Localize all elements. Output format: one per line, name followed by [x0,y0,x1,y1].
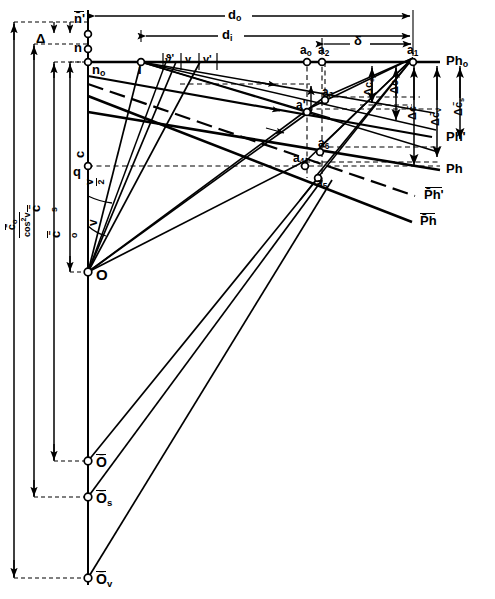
label-a6: a6 [318,137,329,151]
ray-pencil-from-O [88,62,326,272]
label-dimension-do: do [228,8,241,23]
ray-pencil-from-i [141,62,438,152]
label-O-bar: Ō [96,455,107,469]
label-a1: a1 [407,44,418,58]
point-O-bar-s [84,493,92,501]
label-plane-ph-o: Pho [446,54,468,69]
geometry-vector-layer [0,0,495,599]
label-a-prime: a' [296,99,306,111]
plane-line-ph-bar [88,96,412,222]
label-a2: a2 [318,44,329,58]
label-a3: a3 [322,86,333,100]
point-a2 [319,59,326,66]
projection-dashes-horizontal [88,84,440,166]
label-n-bar-prime: n̄' [74,12,85,25]
label-angle-theta-prime: ϑ' [165,53,174,64]
label-plane-ph: Ph [446,162,463,175]
point-q [85,163,92,170]
point-O-bar [84,457,92,465]
label-a0: ao [300,44,312,58]
label-plane-ph-bar: P̄h [420,214,437,227]
label-angle-v-prime: v' [203,54,212,65]
label-dimension-delta: δ [354,34,362,47]
point-n-bar-prime [85,31,92,38]
label-plane-ph-prime: Ph' [446,130,466,143]
ray-pencil-from-O-bars [88,178,332,578]
label-angle-v: v [185,54,191,65]
delta-gap-arrows [54,22,70,33]
label-dimension-di: di [222,28,232,43]
label-O-bar-s: Ōs [96,491,112,507]
label-O: O [96,267,108,282]
point-O [84,268,92,276]
point-O-bar-v [84,574,92,582]
label-q: q [73,165,81,178]
point-a0 [304,59,311,66]
point-n [85,46,92,53]
dimension-extension-ticks [141,10,413,56]
label-a5: a5 [316,177,327,191]
left-ruler-bars [14,22,70,578]
label-n0: no [92,63,105,78]
label-a4: a4 [293,152,304,166]
diagram-canvas: n̄' n no i q Δ O Ō Ōs Ōv do di δ ao a2 a… [0,0,495,599]
label-delta-gap: Δ [36,32,45,45]
ruler-tie-dashes [14,22,88,578]
point-n0 [85,59,92,66]
plane-line-ph-prime [88,76,432,137]
ruler-bottom-arrows [14,256,70,577]
label-O-bar-v: Ōv [96,572,112,588]
label-plane-ph-bar-prime: P̄h' [424,188,444,201]
label-i: i [138,63,142,76]
label-n: n [74,41,82,54]
point-a1 [410,59,417,66]
